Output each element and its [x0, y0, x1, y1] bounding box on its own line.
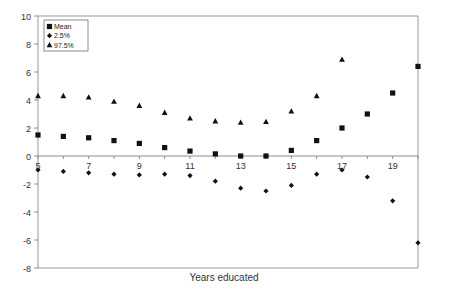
- data-point-square: [61, 134, 66, 139]
- x-tick-label: 15: [286, 161, 296, 171]
- data-point-diamond: [111, 172, 116, 177]
- x-axis-ticks: 5791113151719: [35, 156, 418, 171]
- data-point-triangle: [60, 93, 66, 98]
- data-point-diamond: [137, 172, 142, 177]
- y-tick-label: 6: [26, 68, 31, 78]
- y-tick-label: -2: [23, 180, 31, 190]
- y-tick-label: -6: [23, 236, 31, 246]
- data-point-diamond: [162, 172, 167, 177]
- data-point-triangle: [314, 93, 320, 98]
- data-point-triangle: [187, 115, 193, 120]
- data-point-diamond: [415, 240, 420, 245]
- data-point-triangle: [35, 93, 41, 98]
- data-point-triangle: [86, 94, 92, 99]
- data-point-square: [238, 153, 243, 158]
- x-axis-title: Years educated: [189, 272, 258, 283]
- data-point-diamond: [390, 198, 395, 203]
- data-point-diamond: [187, 173, 192, 178]
- data-point-square: [111, 138, 116, 143]
- data-point-diamond: [238, 186, 243, 191]
- x-tick-label: 11: [185, 161, 194, 171]
- data-point-square: [314, 138, 319, 143]
- legend-marker-square: [47, 24, 52, 29]
- data-point-diamond: [61, 169, 66, 174]
- data-point-diamond: [314, 172, 319, 177]
- data-point-triangle: [238, 119, 244, 124]
- x-tick-label: 7: [86, 161, 91, 171]
- chart-container: -8-6-4-20246810 5791113151719 Mean2.5%97…: [0, 0, 449, 291]
- data-point-square: [390, 90, 395, 95]
- chart-legend: Mean2.5%97.5%: [44, 20, 88, 51]
- y-tick-label: 10: [21, 12, 31, 22]
- y-tick-label: 2: [26, 124, 31, 134]
- data-point-triangle: [212, 118, 218, 123]
- data-point-triangle: [136, 103, 142, 108]
- y-tick-label: -4: [23, 208, 31, 218]
- data-point-diamond: [289, 183, 294, 188]
- data-point-square: [35, 132, 40, 137]
- data-point-square: [415, 64, 420, 69]
- data-point-square: [365, 111, 370, 116]
- data-point-triangle: [339, 56, 345, 61]
- y-axis-ticks: -8-6-4-20246810: [21, 12, 38, 274]
- data-point-diamond: [263, 188, 268, 193]
- legend-label: Mean: [54, 23, 72, 30]
- y-tick-label: 0: [26, 152, 31, 162]
- data-point-triangle: [111, 98, 117, 103]
- legend-label: 97.5%: [54, 42, 74, 49]
- plot-border: [38, 16, 418, 268]
- data-point-square: [187, 149, 192, 154]
- data-point-triangle: [263, 119, 269, 124]
- data-point-diamond: [213, 179, 218, 184]
- x-tick-label: 9: [137, 161, 142, 171]
- data-point-square: [86, 135, 91, 140]
- scatter-plot: -8-6-4-20246810 5791113151719 Mean2.5%97…: [0, 0, 449, 291]
- x-tick-label: 13: [236, 161, 246, 171]
- x-tick-label: 19: [388, 161, 398, 171]
- y-tick-label: 4: [26, 96, 31, 106]
- y-tick-label: 8: [26, 40, 31, 50]
- data-point-square: [162, 145, 167, 150]
- data-point-square: [289, 148, 294, 153]
- legend-label: 2.5%: [54, 32, 70, 39]
- data-points: [35, 56, 421, 245]
- data-point-triangle: [288, 108, 294, 113]
- y-tick-label: -8: [23, 264, 31, 274]
- data-point-square: [213, 151, 218, 156]
- plot-frame: [38, 16, 418, 268]
- data-point-diamond: [365, 174, 370, 179]
- data-point-square: [339, 125, 344, 130]
- data-point-square: [137, 141, 142, 146]
- data-point-square: [263, 153, 268, 158]
- data-point-triangle: [162, 110, 168, 115]
